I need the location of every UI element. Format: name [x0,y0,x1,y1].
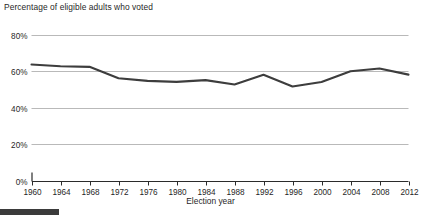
gridlines [32,36,409,145]
y-axis-tick-labels: 0%20%40%60%80% [11,32,27,187]
x-axis-title: Election year [0,196,421,206]
y-axis-tick-label: 40% [11,105,27,114]
data-series-line [32,64,409,86]
axis-lines [32,173,409,182]
y-axis-tick-label: 80% [11,32,27,41]
series-line-voter-turnout [32,64,409,86]
voter-turnout-chart: Percentage of eligible adults who voted … [0,0,421,219]
x-axis-ticks [33,182,410,186]
bottom-accent-bar [0,209,59,215]
y-axis-tick-label: 0% [16,178,28,187]
y-axis-tick-label: 20% [11,141,27,150]
y-axis-tick-label: 60% [11,68,27,77]
chart-plot-area: 0%20%40%60%80% 1960196419681972197619801… [0,0,421,219]
